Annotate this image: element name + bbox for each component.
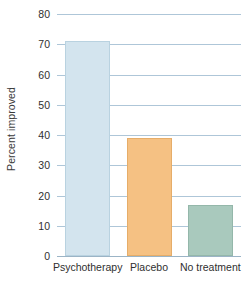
y-axis-tick-label: 20 bbox=[38, 190, 50, 201]
y-axis-title: Percent improved bbox=[0, 0, 22, 258]
y-axis-tick-label: 60 bbox=[38, 69, 50, 80]
gridline bbox=[57, 256, 241, 257]
plot-area: 01020304050607080 bbox=[57, 14, 241, 256]
bar-psychotherapy bbox=[65, 41, 110, 256]
gridline bbox=[57, 14, 241, 15]
y-axis-tick-label: 30 bbox=[38, 160, 50, 171]
x-axis-category-labels: PsychotherapyPlaceboNo treatment bbox=[0, 262, 251, 280]
y-axis-title-text: Percent improved bbox=[5, 87, 17, 171]
y-axis-tick-label: 80 bbox=[38, 9, 50, 20]
bar-chart: Percent improved 01020304050607080 Psych… bbox=[0, 0, 251, 285]
y-axis-tick-label: 50 bbox=[38, 100, 50, 111]
y-axis-tick-label: 10 bbox=[38, 221, 50, 232]
bar-placebo bbox=[127, 138, 172, 256]
y-axis-tick-label: 0 bbox=[44, 251, 50, 262]
category-label-psychotherapy: Psychotherapy bbox=[53, 262, 122, 273]
category-label-no-treatment: No treatment bbox=[180, 262, 241, 273]
bar-no-treatment bbox=[188, 205, 233, 256]
category-label-placebo: Placebo bbox=[130, 262, 168, 273]
y-axis-tick-label: 70 bbox=[38, 39, 50, 50]
y-axis-tick-label: 40 bbox=[38, 130, 50, 141]
